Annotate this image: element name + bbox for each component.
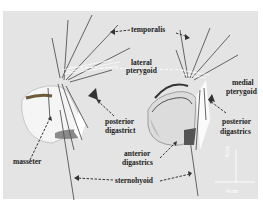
label-masseter: masseter	[13, 158, 41, 166]
scale-bar	[215, 150, 255, 183]
label-temporalis: temporalis	[131, 26, 165, 34]
label-posterior-digastric-left-line2: digastrict	[105, 127, 135, 135]
label-lateral-pterygoid-line2: pterygoid	[126, 67, 157, 75]
label-posterior-digastric-left-line1: posterior	[105, 118, 134, 126]
label-anterior-digastrics-line2: digastrics	[122, 159, 153, 167]
left-jaw-model	[22, 15, 130, 200]
label-sternohyoid: sternohyoid	[115, 177, 153, 185]
label-medial-pterygoid-line2: pterygoid	[226, 88, 257, 96]
label-posterior-digastric-right-line2: digastrics	[220, 128, 251, 136]
label-medial-pterygoid-line1: medial	[232, 79, 254, 87]
scale-bar-vertical-label: 4cm	[223, 146, 231, 158]
label-posterior-digastric-right-line1: posterior	[222, 118, 251, 126]
label-anterior-digastrics-line1: anterior	[124, 150, 150, 158]
scale-bar-horizontal-label: 4cm	[226, 187, 238, 195]
